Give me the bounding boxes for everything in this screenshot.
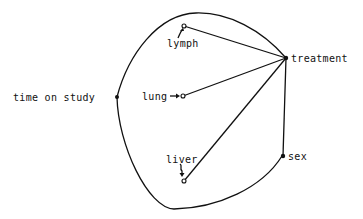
- graph-diagram: time on study lymph lung liver treatment…: [0, 0, 363, 219]
- edge-treatment-sex: [283, 58, 286, 156]
- lung-arrow-icon: [170, 94, 180, 99]
- label-treatment: treatment: [291, 53, 348, 64]
- edge-time-on-study-treatment: [117, 13, 286, 97]
- node-liver[interactable]: [182, 179, 186, 183]
- node-lung[interactable]: [181, 94, 185, 98]
- node-lymph[interactable]: [182, 24, 186, 28]
- lymph-pointer-icon: [178, 28, 184, 38]
- node-time-on-study[interactable]: [115, 95, 119, 99]
- edge-time-on-study-sex: [117, 97, 282, 209]
- label-sex: sex: [288, 151, 307, 162]
- node-sex[interactable]: [281, 154, 285, 158]
- label-time-on-study: time on study: [13, 92, 95, 103]
- label-liver: liver: [166, 154, 198, 165]
- label-lung: lung: [142, 91, 167, 102]
- label-lymph: lymph: [167, 38, 199, 49]
- liver-pointer-icon: [180, 164, 185, 177]
- node-treatment[interactable]: [284, 56, 288, 60]
